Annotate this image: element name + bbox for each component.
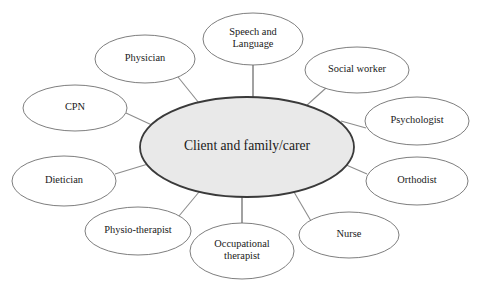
connector-line-physician	[178, 77, 199, 103]
node-label-line: Social worker	[328, 63, 387, 74]
center-node-layer: Client and family/carer	[140, 97, 354, 197]
node-label: Physician	[125, 52, 166, 63]
node-nurse[interactable]: Nurse	[299, 212, 399, 258]
node-label-line: Dietician	[45, 174, 84, 185]
node-label-line: Speech and	[229, 26, 277, 37]
node-label: Orthodist	[397, 174, 436, 185]
node-label: Physio-therapist	[104, 224, 172, 235]
node-label: Social worker	[328, 63, 387, 74]
node-label-line: CPN	[65, 101, 86, 112]
node-label: CPN	[65, 101, 86, 112]
node-client-and-family-carer[interactable]: Client and family/carer	[140, 97, 354, 197]
node-psychologist[interactable]: Psychologist	[365, 97, 469, 145]
node-physio-therapist[interactable]: Physio-therapist	[85, 207, 191, 255]
node-cpn[interactable]: CPN	[23, 85, 127, 131]
connector-line-physio-therapist	[179, 192, 199, 216]
node-physician[interactable]: Physician	[95, 35, 195, 83]
node-occupational-therapist[interactable]: Occupationaltherapist	[190, 223, 294, 279]
connector-line-social-worker	[306, 88, 326, 106]
node-label-line: Language	[233, 39, 274, 50]
connector-line-nurse	[294, 192, 311, 221]
node-label: Dietician	[45, 174, 84, 185]
node-label-line: Orthodist	[397, 174, 436, 185]
node-label-line: Physician	[125, 52, 166, 63]
connector-line-dietician	[115, 164, 148, 174]
node-label: Psychologist	[390, 114, 443, 125]
node-label-line: Client and family/carer	[184, 138, 311, 153]
node-dietician[interactable]: Dietician	[12, 156, 116, 206]
node-label: Nurse	[337, 228, 362, 239]
node-label-line: therapist	[224, 251, 260, 262]
node-orthodist[interactable]: Orthodist	[366, 157, 468, 205]
hub-and-spoke-diagram: Speech andLanguagePhysicianCPNDieticianP…	[0, 0, 479, 291]
node-speech-and-language[interactable]: Speech andLanguage	[203, 13, 303, 65]
node-label: Client and family/carer	[184, 138, 311, 153]
diagram-canvas: Speech andLanguagePhysicianCPNDieticianP…	[0, 0, 479, 291]
connector-line-cpn	[126, 113, 154, 126]
node-label-line: Psychologist	[390, 114, 443, 125]
node-label-line: Occupational	[214, 238, 270, 249]
node-label-line: Nurse	[337, 228, 362, 239]
node-label: Speech andLanguage	[229, 26, 277, 49]
node-label-line: Physio-therapist	[104, 224, 172, 235]
node-social-worker[interactable]: Social worker	[305, 47, 409, 93]
